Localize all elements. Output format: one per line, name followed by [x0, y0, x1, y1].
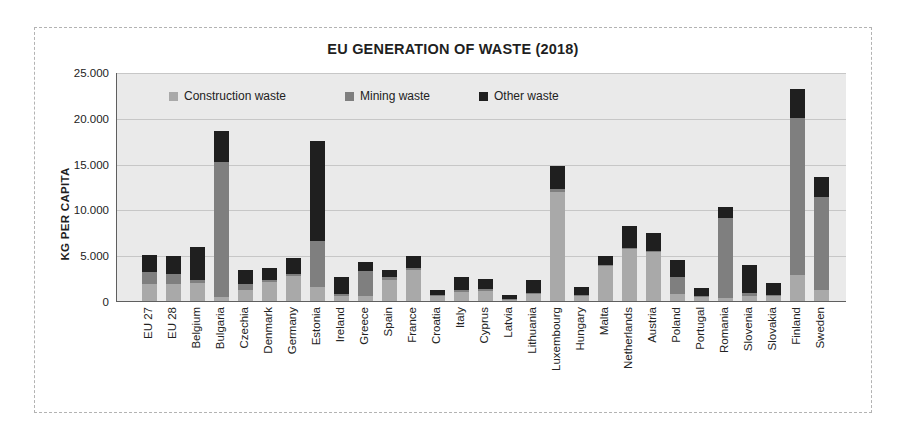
bar-segment-latvia-construction [502, 300, 517, 301]
bar-segment-malta-mining [598, 265, 613, 266]
bar-segment-slovakia-other [766, 283, 781, 295]
bar-segment-portugal-mining [694, 296, 709, 297]
x-axis-label-latvia: Latvia [502, 307, 514, 338]
bar-segment-netherlands-mining [622, 248, 637, 249]
legend-swatch-icon [169, 92, 178, 101]
chart-frame: EU GENERATION OF WASTE (2018) KG PER CAP… [34, 27, 872, 413]
legend-label: Other waste [494, 89, 559, 103]
x-axis-label-estonia: Estonia [310, 307, 322, 345]
x-axis-label-lithuania: Lithuania [526, 307, 538, 354]
x-axis-label-netherlands: Netherlands [622, 307, 634, 369]
x-axis-label-spain: Spain [382, 307, 394, 336]
bar-segment-greece-mining [358, 271, 373, 296]
bar-segment-croatia-construction [430, 296, 445, 301]
bar-segment-croatia-other [430, 290, 445, 295]
bar-segment-germany-mining [286, 274, 301, 277]
y-tick-label: 20.000 [65, 113, 109, 125]
bar-segment-bulgaria-other [214, 131, 229, 162]
bar-segment-luxembourg-mining [550, 189, 565, 192]
bar-segment-czechia-mining [238, 284, 253, 290]
legend-swatch-icon [479, 92, 488, 101]
bar-segment-eu-28-mining [166, 274, 181, 284]
bar-segment-poland-mining [670, 277, 685, 293]
bar-segment-greece-other [358, 262, 373, 271]
x-axis-label-italy: Italy [454, 307, 466, 328]
x-axis-label-luxembourg: Luxembourg [550, 307, 562, 371]
bar-segment-cyprus-construction [478, 291, 493, 301]
x-axis-label-eu-28: EU 28 [166, 307, 178, 339]
bar-segment-estonia-mining [310, 241, 325, 288]
bar-segment-sweden-other [814, 177, 829, 196]
bar-segment-lithuania-construction [526, 294, 541, 301]
bar-segment-greece-construction [358, 296, 373, 301]
y-tick-label: 15.000 [65, 159, 109, 171]
gridline [117, 119, 846, 120]
bar-segment-luxembourg-other [550, 166, 565, 189]
bar-segment-malta-other [598, 256, 613, 265]
bar-segment-lithuania-mining [526, 293, 541, 294]
x-axis-label-greece: Greece [358, 307, 370, 345]
bar-segment-croatia-mining [430, 295, 445, 296]
x-axis-label-finland: Finland [790, 307, 802, 345]
y-tick-label: 5.000 [65, 250, 109, 262]
bar-segment-cyprus-mining [478, 289, 493, 291]
bar-segment-hungary-construction [574, 296, 589, 301]
x-axis-labels: EU 27EU 28BelgiumBulgariaCzechiaDenmarkG… [116, 307, 846, 409]
bar-segment-germany-construction [286, 276, 301, 301]
bar-segment-czechia-other [238, 270, 253, 284]
x-axis-label-romania: Romania [718, 307, 730, 353]
x-axis-label-czechia: Czechia [238, 307, 250, 349]
bar-segment-denmark-other [262, 268, 277, 280]
bar-segment-eu-28-other [166, 256, 181, 273]
bar-segment-eu-27-construction [142, 284, 157, 301]
legend-item-construction: Construction waste [169, 89, 286, 103]
bar-segment-malta-construction [598, 266, 613, 301]
bar-segment-bulgaria-mining [214, 162, 229, 298]
bar-segment-slovakia-mining [766, 295, 781, 297]
x-axis-label-austria: Austria [646, 307, 658, 343]
x-axis-label-belgium: Belgium [190, 307, 202, 349]
y-tick-label: 0 [65, 296, 109, 308]
gridline [117, 73, 846, 74]
bar-segment-ireland-other [334, 277, 349, 293]
bar-segment-latvia-other [502, 295, 517, 300]
bar-segment-netherlands-other [622, 226, 637, 248]
x-axis-label-malta: Malta [598, 307, 610, 335]
bar-segment-ireland-mining [334, 294, 349, 297]
bar-segment-sweden-mining [814, 197, 829, 290]
x-axis-label-germany: Germany [286, 307, 298, 354]
bar-segment-eu-28-construction [166, 284, 181, 301]
plot-area: Construction wasteMining wasteOther wast… [116, 73, 846, 302]
bar-segment-eu-27-mining [142, 272, 157, 284]
legend-swatch-icon [345, 92, 354, 101]
bar-segment-finland-construction [790, 275, 805, 301]
screenshot-canvas: EU GENERATION OF WASTE (2018) KG PER CAP… [0, 0, 901, 439]
bar-segment-finland-other [790, 89, 805, 117]
bar-segment-hungary-mining [574, 295, 589, 296]
chart-title: EU GENERATION OF WASTE (2018) [35, 41, 871, 57]
bar-segment-bulgaria-construction [214, 297, 229, 301]
bar-segment-spain-construction [382, 280, 397, 301]
bar-segment-romania-construction [718, 298, 733, 301]
bar-segment-estonia-construction [310, 287, 325, 301]
bar-segment-lithuania-other [526, 280, 541, 293]
x-axis-label-ireland: Ireland [334, 307, 346, 342]
bar-segment-poland-construction [670, 294, 685, 301]
bar-segment-france-construction [406, 270, 421, 301]
bar-segment-portugal-construction [694, 297, 709, 301]
x-axis-label-hungary: Hungary [574, 307, 586, 350]
bar-segment-spain-other [382, 270, 397, 277]
x-axis-label-eu-27: EU 27 [142, 307, 154, 339]
x-axis-label-denmark: Denmark [262, 307, 274, 354]
bar-segment-belgium-construction [190, 283, 205, 301]
bar-segment-slovenia-other [742, 265, 757, 292]
bar-segment-eu-27-other [142, 255, 157, 271]
x-axis-label-portugal: Portugal [694, 307, 706, 350]
bar-segment-austria-other [646, 233, 661, 250]
bar-segment-sweden-construction [814, 290, 829, 301]
bar-segment-romania-other [718, 207, 733, 218]
bar-segment-czechia-construction [238, 290, 253, 301]
bar-segment-austria-mining [646, 251, 661, 253]
bar-segment-slovakia-construction [766, 296, 781, 301]
y-tick-label: 10.000 [65, 204, 109, 216]
